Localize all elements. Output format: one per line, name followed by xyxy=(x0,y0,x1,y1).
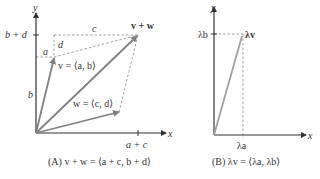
label-vector-v-plus-w: v + w xyxy=(131,20,155,31)
tick-label-lambda-a: λa xyxy=(237,140,247,151)
tick-label-lambda-b: λb xyxy=(198,29,208,40)
vector-v xyxy=(36,58,54,133)
vector-w xyxy=(36,112,119,133)
label-d: d xyxy=(58,39,64,50)
panel-b: y x λb λa λv (B) λv = ⟨λa, λb⟩ xyxy=(198,2,313,168)
y-axis-label-b: y xyxy=(210,2,216,13)
tick-label-a-plus-c: a + c xyxy=(126,139,148,150)
label-a: a xyxy=(43,46,48,57)
x-axis-label: x xyxy=(167,128,173,139)
label-lambda-v: λv xyxy=(245,29,255,40)
vector-lambda-v xyxy=(214,36,242,135)
x-axis-label-b: x xyxy=(307,130,313,141)
label-vector-w: w = ⟨c, d⟩ xyxy=(73,98,113,109)
y-axis-label: y xyxy=(32,2,38,13)
caption-b: (B) λv = ⟨λa, λb⟩ xyxy=(212,156,280,168)
caption-a: (A) v + w = ⟨a + c, b + d⟩ xyxy=(48,156,151,168)
label-vector-v: v = ⟨a, b⟩ xyxy=(58,60,96,71)
tick-label-b-plus-d: b + d xyxy=(5,29,28,40)
label-c: c xyxy=(92,23,97,34)
label-b: b xyxy=(28,89,33,100)
vector-v-plus-w xyxy=(36,36,137,133)
panel-a: y x b + d a + c a b c d v = ⟨a, b⟩ w = ⟨… xyxy=(5,2,173,168)
vector-diagram: y x b + d a + c a b c d v = ⟨a, b⟩ w = ⟨… xyxy=(0,0,320,179)
